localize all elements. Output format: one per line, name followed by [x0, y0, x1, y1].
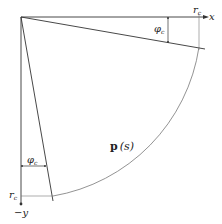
rotated-x-line — [21, 17, 205, 49]
quarter-circle-diagram: rc x φc φc p(s) rc −y — [0, 0, 222, 224]
curve-arc — [53, 47, 199, 196]
radius-x-label: rc — [193, 4, 202, 16]
curve-label: p(s) — [110, 140, 134, 153]
x-axis-label: x — [209, 11, 215, 22]
angle-left-label: φc — [27, 154, 38, 166]
rotated-y-line — [21, 17, 53, 201]
y-axis-label: −y — [14, 207, 28, 218]
angle-top-label: φc — [154, 23, 165, 35]
y-axis-end-dot — [20, 203, 23, 206]
radius-y-label: rc — [9, 189, 18, 201]
